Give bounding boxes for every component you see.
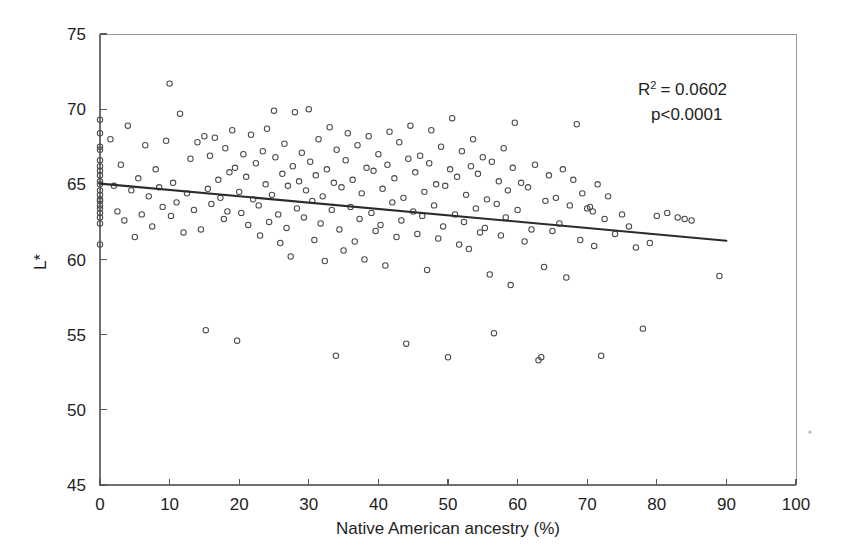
data-point-marker: [529, 227, 534, 232]
data-point-marker: [424, 267, 429, 272]
data-point-marker: [654, 213, 659, 218]
data-point-marker: [132, 234, 137, 239]
data-point-marker: [408, 123, 413, 128]
data-point-marker: [285, 183, 290, 188]
data-point-marker: [170, 180, 175, 185]
data-point-marker: [475, 171, 480, 176]
data-point-marker: [278, 240, 283, 245]
data-point-marker: [543, 198, 548, 203]
data-point-marker: [392, 176, 397, 181]
data-point-marker: [376, 152, 381, 157]
data-point-marker: [602, 216, 607, 221]
data-point-marker: [136, 176, 141, 181]
data-point-marker: [380, 186, 385, 191]
data-point-marker: [503, 215, 508, 220]
data-point-marker: [205, 186, 210, 191]
data-point-marker: [619, 212, 624, 217]
data-point-marker: [415, 231, 420, 236]
data-point-marker: [181, 230, 186, 235]
data-point-marker: [487, 272, 492, 277]
data-point-marker: [449, 115, 454, 120]
data-point-marker: [246, 222, 251, 227]
data-point-marker: [243, 174, 248, 179]
data-point-marker: [546, 173, 551, 178]
scatter-plot-figure: 0102030405060708090100 45505560657075 Na…: [0, 0, 851, 560]
data-point-marker: [248, 132, 253, 137]
plot-border: [100, 34, 796, 485]
data-point-marker: [571, 177, 576, 182]
data-point-marker: [150, 224, 155, 229]
data-points: [97, 81, 722, 363]
data-point-marker: [399, 218, 404, 223]
data-point-marker: [443, 183, 448, 188]
data-point-marker: [312, 237, 317, 242]
data-point-marker: [188, 156, 193, 161]
data-point-marker: [327, 125, 332, 130]
data-point-marker: [223, 146, 228, 151]
data-point-marker: [271, 108, 276, 113]
x-axis-title: Native American ancestry (%): [336, 519, 560, 538]
data-point-marker: [362, 257, 367, 262]
data-point-marker: [301, 215, 306, 220]
data-point-marker: [253, 161, 258, 166]
data-point-marker: [461, 219, 466, 224]
data-point-marker: [498, 233, 503, 238]
data-point-marker: [257, 233, 262, 238]
data-point-marker: [108, 137, 113, 142]
scan-speck-icon: [808, 430, 811, 433]
data-point-marker: [459, 149, 464, 154]
y-axis-title-group: L*: [31, 254, 50, 270]
data-point-marker: [118, 162, 123, 167]
data-point-marker: [489, 159, 494, 164]
data-point-marker: [532, 162, 537, 167]
data-point-marker: [682, 216, 687, 221]
data-point-marker: [484, 197, 489, 202]
data-point-marker: [341, 248, 346, 253]
data-point-marker: [482, 225, 487, 230]
data-point-marker: [324, 167, 329, 172]
data-point-marker: [512, 120, 517, 125]
data-point-marker: [675, 215, 680, 220]
r-squared-annotation: R2= 0.0602: [638, 79, 727, 99]
y-tick-label: 60: [67, 251, 86, 270]
data-point-marker: [203, 327, 208, 332]
data-point-marker: [564, 275, 569, 280]
data-point-marker: [525, 185, 530, 190]
data-point-marker: [168, 213, 173, 218]
data-point-marker: [567, 203, 572, 208]
data-point-marker: [296, 179, 301, 184]
data-point-marker: [153, 167, 158, 172]
data-point-marker: [406, 156, 411, 161]
data-point-marker: [553, 195, 558, 200]
data-point-marker: [647, 240, 652, 245]
data-point-marker: [115, 209, 120, 214]
x-tick-label: 70: [578, 495, 597, 514]
data-point-marker: [626, 224, 631, 229]
data-point-marker: [313, 173, 318, 178]
data-point-marker: [212, 135, 217, 140]
y-tick-label: 70: [67, 100, 86, 119]
data-point-marker: [256, 203, 261, 208]
data-point-marker: [322, 258, 327, 263]
data-point-marker: [352, 239, 357, 244]
data-point-marker: [337, 227, 342, 232]
data-point-marker: [427, 161, 432, 166]
data-point-marker: [241, 152, 246, 157]
data-point-marker: [473, 206, 478, 211]
data-point-marker: [605, 194, 610, 199]
data-point-marker: [160, 204, 165, 209]
data-point-marker: [269, 192, 274, 197]
data-point-marker: [227, 170, 232, 175]
y-tick-labels: 45505560657075: [67, 25, 86, 495]
data-point-marker: [480, 155, 485, 160]
data-point-marker: [378, 222, 383, 227]
x-tick-label: 0: [95, 495, 104, 514]
data-point-marker: [292, 109, 297, 114]
data-point-marker: [191, 207, 196, 212]
data-point-marker: [316, 137, 321, 142]
data-point-marker: [143, 143, 148, 148]
data-point-marker: [273, 155, 278, 160]
data-point-marker: [612, 231, 617, 236]
data-point-marker: [633, 245, 638, 250]
data-point-marker: [264, 126, 269, 131]
